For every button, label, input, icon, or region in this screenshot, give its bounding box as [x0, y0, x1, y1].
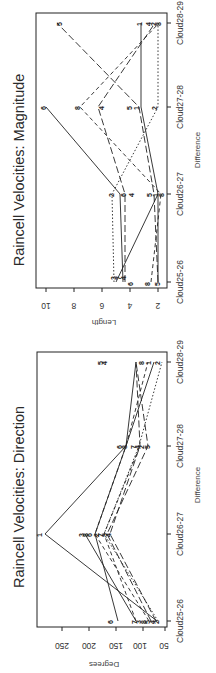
svg-text:Cloud25-26: Cloud25-26	[175, 260, 185, 304]
svg-text:5: 5	[56, 22, 63, 26]
series-6-line	[95, 362, 136, 621]
svg-text:8: 8	[144, 282, 151, 286]
svg-text:4: 4	[101, 361, 108, 365]
svg-text:6: 6	[86, 533, 93, 537]
svg-text:200: 200	[82, 641, 96, 651]
direction-chart: Raincell Velocities: Direction 250 200 1…	[0, 337, 216, 673]
svg-text:2: 2	[155, 301, 160, 311]
chart-title: Raincell Velocities: Direction	[11, 406, 27, 588]
x-axis-label: Difference	[193, 466, 202, 503]
series-8-line	[80, 23, 161, 282]
svg-text:1: 1	[145, 361, 152, 365]
series-5-line	[57, 23, 158, 282]
svg-text:4: 4	[105, 533, 112, 537]
series-4-line	[110, 362, 156, 621]
chart-title: Raincell Velocities: Magnitude	[11, 74, 27, 267]
y-axis-tick-labels: 10 8 6 4 2	[41, 301, 160, 311]
svg-text:1: 1	[133, 106, 140, 110]
svg-text:Cloud28-29: Cloud28-29	[175, 1, 185, 45]
svg-text:250: 250	[55, 641, 69, 651]
svg-text:50: 50	[159, 641, 169, 651]
x-axis-label: Difference	[193, 131, 202, 168]
svg-text:6: 6	[127, 282, 134, 286]
svg-text:6: 6	[120, 193, 127, 197]
x-axis-ticks	[167, 362, 171, 621]
svg-text:4: 4	[120, 276, 127, 280]
data-lines	[46, 23, 161, 282]
svg-text:5: 5	[126, 106, 133, 110]
svg-text:8: 8	[71, 301, 76, 311]
svg-text:8: 8	[74, 106, 81, 110]
svg-text:Cloud28-29: Cloud28-29	[175, 340, 185, 384]
svg-text:8: 8	[138, 361, 145, 365]
svg-text:6: 6	[40, 106, 47, 110]
plot-frame	[36, 13, 167, 288]
svg-text:4: 4	[98, 106, 105, 110]
plot-frame	[37, 352, 167, 627]
svg-text:150: 150	[109, 641, 123, 651]
svg-text:6: 6	[107, 620, 114, 624]
series-2-line	[104, 362, 162, 621]
svg-text:2: 2	[153, 620, 160, 624]
svg-text:8: 8	[158, 193, 165, 197]
svg-text:4: 4	[128, 193, 135, 197]
svg-text:1: 1	[136, 22, 143, 26]
series-1-line	[45, 362, 157, 621]
point-labels: 6 7 3 8 5 4 2 1 3 8 6 2 7 5 4 6 8 7 4 2 …	[36, 361, 161, 624]
series-1-line	[141, 23, 158, 282]
svg-text:8: 8	[155, 22, 162, 26]
svg-text:2: 2	[108, 193, 115, 197]
svg-text:Cloud27-28: Cloud27-28	[175, 424, 185, 468]
series-3-line	[85, 534, 136, 621]
svg-text:100: 100	[133, 641, 147, 651]
svg-text:4: 4	[127, 301, 132, 311]
series-3-line	[116, 194, 158, 282]
y-axis-label: Length	[92, 318, 116, 327]
svg-text:Cloud26-27: Cloud26-27	[175, 512, 185, 556]
y-axis-label: Degrees	[89, 660, 119, 669]
svg-text:5: 5	[144, 445, 151, 449]
magnitude-chart: Raincell Velocities: Magnitude 10 8 6 4 …	[0, 0, 216, 340]
svg-text:Cloud25-26: Cloud25-26	[175, 599, 185, 643]
svg-text:6: 6	[99, 301, 104, 311]
data-lines	[45, 362, 162, 621]
y-axis-tick-labels: 250 200 150 100 50	[55, 641, 169, 651]
svg-text:2: 2	[154, 361, 161, 365]
svg-text:5: 5	[154, 282, 161, 286]
x-axis-tick-labels: Cloud25-26 Cloud26-27 Cloud27-28 Cloud28…	[175, 340, 185, 643]
svg-text:8: 8	[121, 445, 128, 449]
svg-text:1: 1	[36, 533, 43, 537]
y-axis-ticks	[46, 288, 158, 292]
x-axis-tick-labels: Cloud25-26 Cloud26-27 Cloud27-28 Cloud28…	[175, 1, 185, 304]
x-axis-ticks	[167, 23, 171, 282]
y-axis-ticks	[62, 627, 165, 631]
point-labels: 3 7 4 6 8 5 2 6 4 5 1 8 6 8 4 5 1 2 5 1 …	[40, 22, 165, 286]
svg-text:2: 2	[151, 106, 158, 110]
svg-text:Cloud27-28: Cloud27-28	[175, 85, 185, 129]
svg-text:Cloud26-27: Cloud26-27	[175, 172, 185, 216]
direction-plot: Raincell Velocities: Direction 250 200 1…	[0, 337, 216, 673]
svg-text:10: 10	[41, 301, 51, 311]
magnitude-plot: Raincell Velocities: Magnitude 10 8 6 4 …	[0, 0, 216, 340]
